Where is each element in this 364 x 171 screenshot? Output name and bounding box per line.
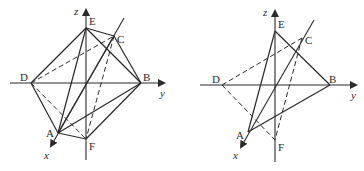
hidden-edges [222,38,302,140]
y-axis-label: y [350,89,356,101]
figure-left: z y x E C D B A F [10,5,165,161]
vertex-label-b: B [329,73,336,85]
z-axis-label: z [73,5,79,17]
vertex-label-a: A [46,127,54,139]
x-axis-label: x [232,149,238,161]
diagram-canvas: z y x E C D B A F z y x E C [0,0,364,171]
vertex-label-c: C [305,34,312,46]
solid-edges [248,31,330,132]
vertex-label-d: D [212,73,220,85]
vertex-label-e: E [89,15,96,27]
vertex-label-d: D [20,71,28,83]
vertex-label-f: F [278,141,284,153]
vertex-label-f: F [89,140,95,152]
z-axis-label: z [262,6,268,18]
vertex-label-c: C [117,33,124,45]
vertex-label-b: B [143,71,150,83]
y-axis-label: y [159,87,165,99]
vertex-label-a: A [236,129,244,141]
x-axis-label: x [43,149,49,161]
figure-right: z y x E C D B A F [200,6,356,162]
x-axis [241,20,314,147]
vertex-label-e: E [278,18,285,30]
